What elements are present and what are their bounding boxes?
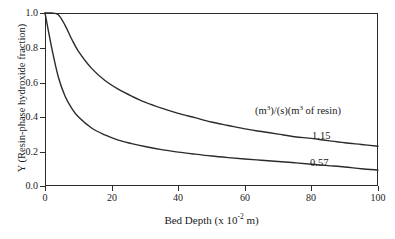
x-tick-mark: [112, 186, 113, 191]
y-axis-title: Y (Resin-phase hydroxide fraction): [16, 3, 28, 193]
x-tick-label: 40: [158, 193, 198, 203]
curve-series-0-57: [45, 13, 378, 170]
x-tick-label: 100: [358, 193, 395, 203]
legend-header-suffix: of resin): [303, 105, 341, 116]
x-axis-title-suffix: m): [244, 214, 259, 226]
x-tick-mark: [178, 186, 179, 191]
curve-label-series-1-15: 1.15: [312, 130, 330, 142]
y-tick-label: 0.8: [26, 43, 39, 53]
x-axis-title: Bed Depth (x 10-2 m): [45, 214, 378, 227]
y-tick-label: 0.4: [26, 112, 39, 122]
legend-header: (m3)/(s)(m3 of resin): [255, 105, 341, 117]
curve-series-1-15: [45, 13, 378, 146]
x-axis-title-prefix: Bed Depth (x 10: [164, 214, 237, 226]
legend-header-prefix: (m: [255, 105, 267, 116]
y-tick-label: 0.0: [26, 181, 39, 191]
legend-header-mid: )/(s)(m: [270, 105, 299, 116]
chart-figure: Y (Resin-phase hydroxide fraction) 1.0 0…: [0, 0, 395, 239]
y-tick-label: 0.2: [26, 147, 39, 157]
curve-label-series-0-57: 0.57: [310, 157, 328, 169]
x-tick-mark: [378, 186, 379, 191]
x-tick-label: 80: [291, 193, 331, 203]
y-tick-label: 0.6: [26, 78, 39, 88]
x-tick-label: 60: [225, 193, 265, 203]
y-tick-label: 1.0: [26, 8, 39, 18]
x-tick-mark: [45, 186, 46, 191]
x-tick-mark: [311, 186, 312, 191]
x-tick-label: 0: [25, 193, 65, 203]
x-tick-mark: [245, 186, 246, 191]
x-tick-label: 20: [92, 193, 132, 203]
